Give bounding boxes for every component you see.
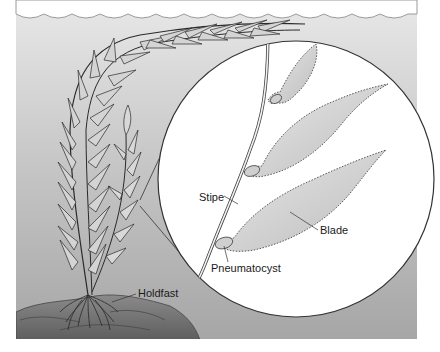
water-surface: [16, 0, 417, 18]
label-blade: Blade: [320, 225, 348, 236]
label-pneumatocyst: Pneumatocyst: [211, 263, 281, 274]
diagram-canvas: [0, 0, 440, 352]
label-holdfast: Holdfast: [138, 288, 178, 299]
label-stipe: Stipe: [199, 192, 224, 203]
kelp-diagram: Stipe Blade Pneumatocyst Holdfast: [0, 0, 440, 352]
